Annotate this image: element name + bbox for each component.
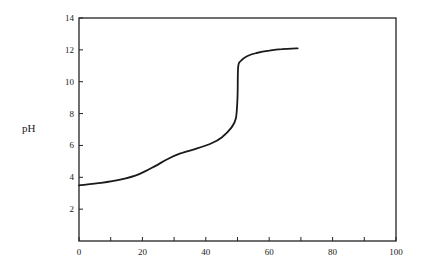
x-tick-label: 100 (389, 247, 403, 257)
plot-frame (79, 18, 396, 241)
plot-border (79, 18, 396, 241)
y-tick-label: 8 (70, 109, 75, 119)
titration-curve (79, 48, 298, 185)
x-tick-label: 20 (138, 247, 148, 257)
x-axis: 020406080100 (77, 237, 404, 257)
y-tick-label: 12 (65, 45, 74, 55)
y-axis: 2468101214 (65, 13, 83, 214)
y-tick-label: 4 (70, 172, 75, 182)
y-axis-label: pH (22, 122, 36, 134)
data-series (79, 48, 298, 185)
x-tick-label: 60 (265, 247, 275, 257)
y-tick-label: 2 (70, 204, 75, 214)
y-tick-label: 14 (65, 13, 75, 23)
y-tick-label: 6 (70, 140, 75, 150)
x-tick-label: 40 (201, 247, 211, 257)
y-tick-label: 10 (65, 77, 75, 87)
x-tick-label: 0 (77, 247, 82, 257)
x-tick-label: 80 (328, 247, 338, 257)
titration-chart: 020406080100 2468101214 pH (0, 0, 423, 278)
